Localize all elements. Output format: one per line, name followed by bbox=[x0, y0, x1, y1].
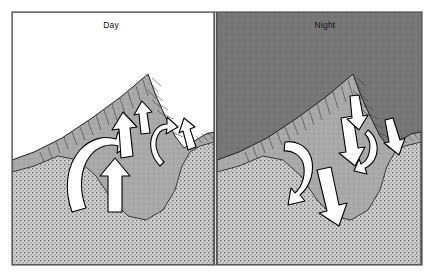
panel-label-night: Night bbox=[315, 20, 336, 30]
valley-wind-diagram: Day bbox=[0, 0, 434, 277]
panel-night: Night bbox=[217, 12, 422, 265]
diagram-canvas: Day bbox=[0, 0, 434, 277]
panel-day: Day bbox=[12, 12, 214, 265]
panel-label-day: Day bbox=[103, 20, 119, 30]
